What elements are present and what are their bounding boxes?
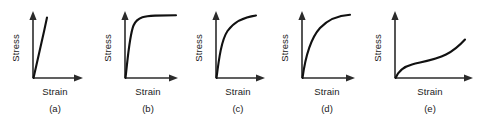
curve-b [126,15,177,78]
x-axis-arrow-icon-c [256,74,265,81]
x-axis-arrow-icon-a [74,74,83,81]
x-axis-label-d: Strain [314,86,339,97]
x-axis-arrow-icon-e [464,74,473,81]
panel-caption-c: (c) [232,103,243,114]
panel-caption-b: (b) [142,103,154,114]
y-axis-arrow-icon-b [121,11,128,20]
chart-panel-a: Stress Strain (a) [0,0,95,121]
curve-e [396,40,466,79]
curve-c [217,16,257,79]
curve-d [303,15,351,78]
chart-panel-c: Stress Strain (c) [186,0,278,121]
panel-caption-d: (d) [321,103,333,114]
y-axis-label-c: Stress [193,34,204,62]
y-axis-label-e: Stress [372,34,383,62]
x-axis-label-e: Strain [417,86,442,97]
chart-svg-d: Stress Strain (d) [274,0,370,121]
chart-panel-d: Stress Strain (d) [274,0,370,121]
chart-svg-a: Stress Strain (a) [0,0,95,121]
y-axis-arrow-icon-c [212,11,219,20]
chart-svg-c: Stress Strain (c) [186,0,278,121]
curve-a [34,18,48,79]
y-axis-label-d: Stress [279,34,290,62]
chart-panel-b: Stress Strain (b) [93,0,189,121]
panel-caption-e: (e) [424,103,436,114]
x-axis-label-b: Strain [135,86,160,97]
chart-svg-b: Stress Strain (b) [93,0,189,121]
x-axis-label-c: Strain [225,86,250,97]
y-axis-label-a: Stress [10,34,21,62]
y-axis-label-b: Stress [102,34,113,62]
y-axis-arrow-icon-e [391,11,398,20]
y-axis-arrow-icon-d [298,11,305,20]
x-axis-arrow-icon-b [169,74,178,81]
panel-caption-a: (a) [49,103,61,114]
x-axis-arrow-icon-d [346,74,355,81]
chart-svg-e: Stress Strain (e) [368,0,488,121]
stress-strain-figure: Stress Strain (a) Stress Strain (b) Stre… [0,0,488,121]
y-axis-arrow-icon-a [29,11,36,20]
x-axis-label-a: Strain [42,86,67,97]
chart-panel-e: Stress Strain (e) [368,0,488,121]
